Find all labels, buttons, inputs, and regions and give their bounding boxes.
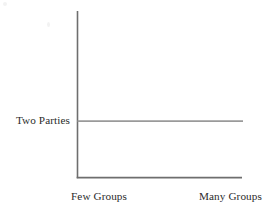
chart-figure: Two Parties Few Groups Many Groups — [0, 0, 266, 208]
x-axis-tick-label-few-groups: Few Groups — [71, 190, 127, 202]
y-axis-tick-label-two-parties: Two Parties — [16, 114, 70, 126]
x-axis-tick-label-many-groups: Many Groups — [199, 190, 262, 202]
plot-area — [0, 0, 266, 208]
